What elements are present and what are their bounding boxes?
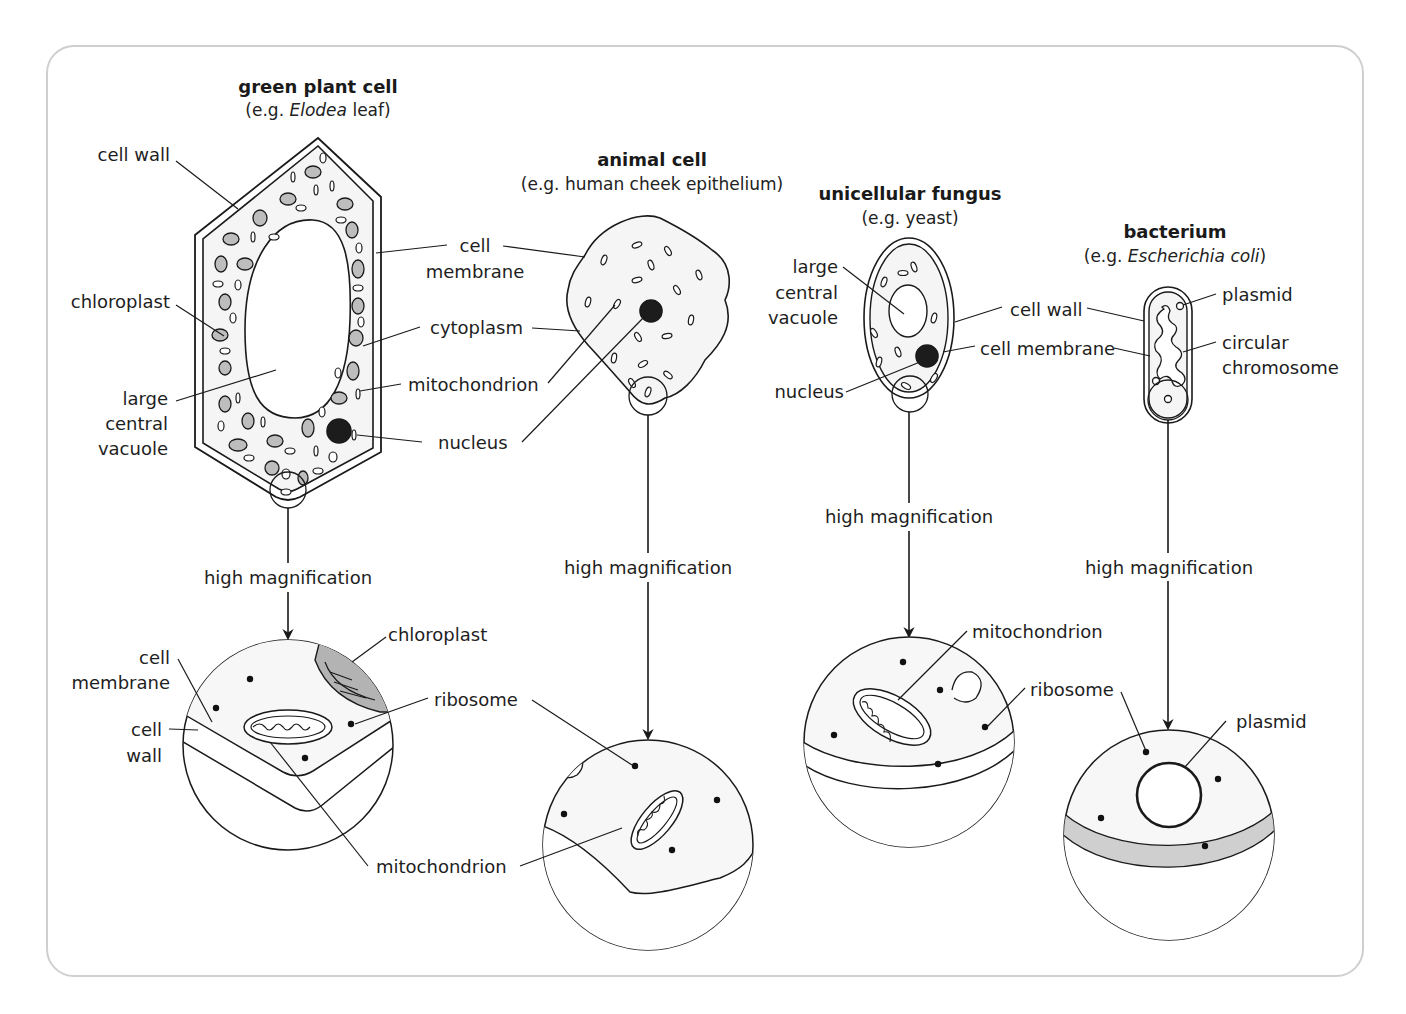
label-cell-wall-shared: cell wall bbox=[1010, 297, 1082, 322]
label-fungus-vacuole-3: vacuole bbox=[760, 305, 838, 330]
bacterium-example-species: Escherichia coli bbox=[1128, 246, 1260, 266]
plant-cell-drawing bbox=[195, 138, 381, 508]
label-cytoplasm: cytoplasm bbox=[430, 315, 523, 340]
plant-example-species: Elodea bbox=[289, 100, 347, 120]
plant-cell-example: (e.g. Elodea leaf) bbox=[218, 98, 418, 122]
label-plant-chloroplast: chloroplast bbox=[40, 289, 170, 314]
bacterium-example-suffix: ) bbox=[1260, 246, 1267, 266]
label-plant-zoom-mitochondrion: mitochondrion bbox=[376, 854, 507, 879]
label-plant-vacuole-3: vacuole bbox=[60, 436, 168, 461]
fungus-example: (e.g. yeast) bbox=[810, 206, 1010, 230]
label-plant-zoom-membrane-2: membrane bbox=[70, 670, 170, 695]
label-cell-membrane-1: cell bbox=[430, 233, 520, 258]
animal-zoom-circle bbox=[540, 740, 760, 960]
animal-cell-example: (e.g. human cheek epithelium) bbox=[502, 172, 802, 196]
label-cell-membrane-shared: cell membrane bbox=[980, 336, 1115, 361]
plant-magnification-label: high magnification bbox=[188, 565, 388, 590]
label-plant-vacuole-1: large bbox=[60, 386, 168, 411]
label-plant-vacuole-2: central bbox=[60, 411, 168, 436]
bacterium-magnification-label: high magnification bbox=[1069, 555, 1269, 580]
plant-zoom-circle bbox=[180, 600, 400, 850]
animal-cell-drawing bbox=[567, 216, 729, 415]
label-fungus-zoom-mitochondrion: mitochondrion bbox=[972, 619, 1103, 644]
plant-cell-title: green plant cell bbox=[218, 75, 418, 99]
label-bacterium-chromosome-2: chromosome bbox=[1222, 355, 1339, 380]
label-nucleus: nucleus bbox=[438, 430, 508, 455]
label-cell-membrane-2: membrane bbox=[420, 259, 530, 284]
label-plant-zoom-chloroplast: chloroplast bbox=[388, 622, 487, 647]
label-bacterium-plasmid: plasmid bbox=[1222, 282, 1293, 307]
bacterium-zoom-circle bbox=[1060, 730, 1280, 950]
bacterium-title: bacterium bbox=[1075, 220, 1275, 244]
animal-magnification-label: high magnification bbox=[548, 555, 748, 580]
label-fungus-zoom-ribosome: ribosome bbox=[1030, 677, 1114, 702]
bacterium-drawing bbox=[1144, 287, 1192, 423]
bacterium-example: (e.g. Escherichia coli) bbox=[1055, 244, 1295, 268]
label-bacterium-zoom-plasmid: plasmid bbox=[1236, 709, 1307, 734]
label-bacterium-chromosome-1: circular bbox=[1222, 330, 1289, 355]
plant-example-prefix: (e.g. bbox=[245, 100, 289, 120]
label-plant-cell-wall: cell wall bbox=[60, 142, 170, 167]
label-fungus-vacuole-2: central bbox=[760, 280, 838, 305]
label-plant-zoom-membrane-1: cell bbox=[100, 645, 170, 670]
label-plant-zoom-ribosome: ribosome bbox=[434, 687, 518, 712]
plant-example-suffix: leaf) bbox=[347, 100, 391, 120]
fungus-zoom-circle bbox=[800, 637, 1020, 860]
label-plant-zoom-wall-2: wall bbox=[100, 743, 162, 768]
label-fungus-vacuole-1: large bbox=[760, 254, 838, 279]
animal-cell-title: animal cell bbox=[522, 148, 782, 172]
bacterium-example-prefix: (e.g. bbox=[1084, 246, 1128, 266]
label-fungus-nucleus: nucleus bbox=[760, 379, 844, 404]
fungus-magnification-label: high magnification bbox=[809, 504, 1009, 529]
fungus-title: unicellular fungus bbox=[810, 182, 1010, 206]
label-mitochondrion: mitochondrion bbox=[408, 372, 539, 397]
fungus-drawing bbox=[864, 238, 954, 412]
label-plant-zoom-wall-1: cell bbox=[100, 717, 162, 742]
